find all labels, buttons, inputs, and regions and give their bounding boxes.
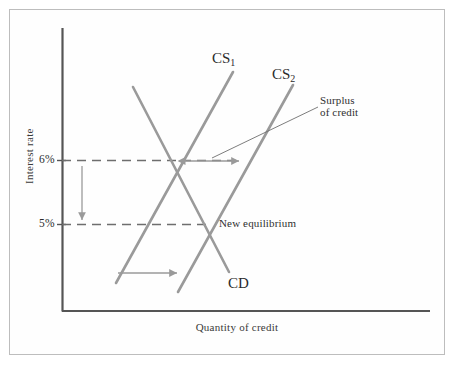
curve-label-cs2: CS2 (272, 66, 295, 83)
x-axis-title: Quantity of credit (152, 321, 322, 333)
annotation-surplus-line1: Surplus (320, 94, 355, 106)
curve-label-cs2-text: CS (272, 66, 290, 82)
reference-lines (62, 161, 240, 225)
curve-cs1 (116, 72, 233, 283)
curve-label-cs2-subscript: 2 (290, 73, 295, 84)
annotation-surplus-line2: of credit (320, 106, 358, 118)
annotation-new-equilibrium: New equilibrium (219, 217, 296, 229)
callout-leader-group (212, 107, 318, 158)
curve-label-cd: CD (228, 275, 249, 292)
arrows-group (82, 161, 239, 273)
y-axis-title: Interest rate (23, 111, 35, 201)
y-tick-label-5pct: 5% (39, 217, 55, 230)
y-tick-label-6pct: 6% (39, 153, 55, 166)
curve-cd (133, 87, 229, 272)
curves-group (116, 72, 293, 292)
curve-label-cs1-text: CS (212, 50, 230, 66)
leader-line-surplus (212, 107, 318, 158)
curve-label-cs1-subscript: 1 (230, 57, 235, 68)
annotation-surplus-of-credit: Surplusof credit (320, 94, 358, 119)
curve-label-cs1: CS1 (212, 50, 235, 67)
curve-cs2 (178, 85, 293, 292)
figure-container: Interest rate Quantity of credit 6% 5% C… (0, 0, 455, 365)
